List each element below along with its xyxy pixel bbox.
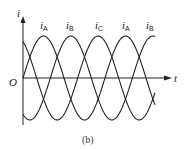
three-phase-current-diagram: i t O iAiBiCiAiB (b) [0,0,187,149]
curve-label-ia: iA [40,19,48,32]
origin-label: O [9,76,17,88]
x-axis-arrow-icon [164,76,172,81]
curve-label-ib: iB [146,19,154,32]
y-axis-arrow-icon [21,16,26,23]
curve-label-ib: iB [66,19,74,32]
x-axis-label: t [174,72,178,84]
curve-label-ia: iA [122,19,130,32]
y-axis-label: i [17,7,20,19]
curve-label-ic: iC [95,19,103,32]
figure-caption: (b) [82,134,94,146]
curve-labels: iAiBiCiAiB [40,19,154,32]
